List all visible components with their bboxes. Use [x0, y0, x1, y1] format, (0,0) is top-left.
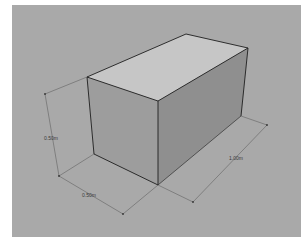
box-diagram: 0.50m 0.50m 1.00m	[0, 0, 307, 245]
depth-dimension-label: 0.50m	[82, 192, 96, 198]
height-dimension-label: 0.50m	[44, 135, 58, 141]
length-dimension-label: 1.00m	[229, 155, 243, 161]
